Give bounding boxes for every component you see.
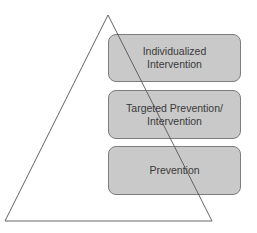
tier-box-targeted-prevention-intervention: Targeted Prevention/ Intervention [108, 90, 241, 139]
tier-box-prevention: Prevention [108, 146, 241, 195]
pyramid-diagram: Individualized Intervention Targeted Pre… [0, 0, 257, 233]
tier-label: Prevention [149, 164, 199, 177]
tier-label: Targeted Prevention/ Intervention [126, 102, 223, 128]
tier-label: Individualized Intervention [143, 45, 207, 71]
tier-box-individualized-intervention: Individualized Intervention [108, 34, 241, 82]
